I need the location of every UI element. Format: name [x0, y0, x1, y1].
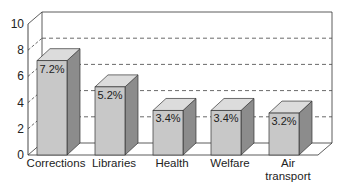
- gridline-side: [28, 38, 42, 50]
- y-tick-label: 8: [17, 43, 24, 57]
- data-label: 3.2%: [271, 115, 296, 127]
- x-tick-label: transport: [265, 170, 311, 182]
- data-label: 3.4%: [155, 112, 180, 124]
- bar-chart-3d: 02468107.2%Corrections5.2%Libraries3.4%H…: [0, 0, 346, 193]
- x-tick-label: Corrections: [27, 157, 86, 169]
- bar-front: [37, 61, 67, 155]
- bar-health: 3.4%: [153, 98, 196, 155]
- bar-welfare: 3.4%: [211, 98, 254, 155]
- x-tick-label: Welfare: [210, 157, 249, 169]
- bar-side: [125, 75, 138, 155]
- side-wall-top-edge: [28, 12, 42, 24]
- data-label: 5.2%: [97, 89, 122, 101]
- y-tick-label: 0: [17, 148, 24, 162]
- x-tick-label: Air: [281, 157, 295, 169]
- y-tick-label: 2: [17, 122, 24, 136]
- bar-corrections: 7.2%: [37, 49, 80, 155]
- y-tick-label: 6: [17, 69, 24, 83]
- bar-side: [67, 49, 80, 155]
- chart-canvas: 02468107.2%Corrections5.2%Libraries3.4%H…: [0, 0, 346, 193]
- y-tick-label: 4: [17, 96, 24, 110]
- bar-libraries: 5.2%: [95, 75, 138, 155]
- x-tick-label: Libraries: [92, 157, 136, 169]
- data-label: 3.4%: [213, 112, 238, 124]
- x-tick-label: Health: [155, 157, 188, 169]
- y-tick-label: 10: [11, 17, 25, 31]
- bar-air-transport: 3.2%: [269, 101, 312, 155]
- data-label: 7.2%: [39, 63, 64, 75]
